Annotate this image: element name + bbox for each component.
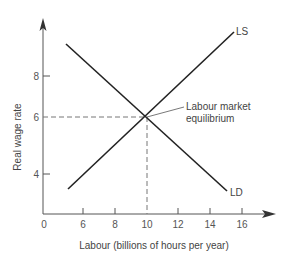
annotation-line1: Labour market: [186, 101, 251, 112]
y-axis-title: Real wage rate: [12, 103, 23, 171]
annotation-line2: equilibrium: [186, 113, 234, 124]
x-tick-16: 16: [236, 219, 248, 230]
ls-label: LS: [236, 26, 249, 37]
x-tick-0: 0: [41, 219, 47, 230]
y-ticks: [43, 76, 50, 174]
x-tick-6: 6: [80, 219, 86, 230]
ld-label: LD: [230, 187, 243, 198]
x-tick-labels: 0 6 8 10 12 14 16: [41, 219, 248, 230]
x-tick-12: 12: [172, 219, 184, 230]
x-axis-title: Labour (billions of hours per year): [79, 240, 229, 251]
x-ticks: [83, 208, 242, 214]
y-tick-labels: 8 6 4: [33, 71, 39, 180]
x-tick-10: 10: [141, 219, 153, 230]
y-tick-4: 4: [33, 169, 39, 180]
x-tick-8: 8: [112, 219, 118, 230]
y-tick-6: 6: [33, 112, 39, 123]
x-tick-14: 14: [204, 219, 216, 230]
labour-market-chart: 0 6 8 10 12 14 16 8 6 4 LS LD Labour mar…: [0, 0, 289, 262]
y-tick-8: 8: [33, 71, 39, 82]
